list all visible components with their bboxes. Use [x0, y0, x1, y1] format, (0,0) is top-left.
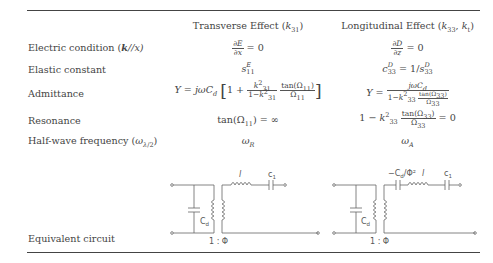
table-bottom-rule	[27, 252, 480, 253]
header-longitudinal-text: Longitudinal Effect (	[341, 20, 441, 31]
c1-label: c1	[268, 170, 276, 180]
longitudinal-resonance: 1 − k233 tan(Ω33)Ω33 = 0	[330, 110, 485, 127]
header-transverse-text: Transverse Effect (	[193, 20, 286, 31]
ratio-label: 1 : Φ	[209, 237, 228, 246]
row-label-resonance: Resonance	[28, 115, 81, 126]
transverse-equivalent-circuit: Cd l c1 1 : Φ	[170, 168, 320, 248]
label-k-vector: k	[121, 42, 128, 53]
transverse-admittance: Y = jωCd [1 + k2311−k231 tan(Ω11)Ω11]	[163, 82, 333, 99]
row-label-equivalent-circuit: Equivalent circuit	[28, 233, 115, 244]
c1-label: c1	[444, 169, 452, 179]
ratio-label: 1 : Φ	[370, 237, 389, 246]
transverse-elastic-constant: sE11	[163, 62, 333, 76]
longitudinal-electric-condition: ∂D∂z = 0	[330, 40, 485, 57]
row-label-electric-condition: Electric condition (k//x)	[28, 42, 144, 53]
neg-cd-label: −Cd/Φ²	[388, 169, 416, 179]
k33-subscript: 33	[447, 26, 455, 34]
l-label: l	[422, 169, 425, 178]
label-tail: //x)	[128, 42, 144, 53]
row-label-elastic-constant: Elastic constant	[28, 64, 106, 75]
l-label: l	[239, 170, 242, 179]
row-label-admittance: Admittance	[28, 88, 84, 99]
row-label-half-wave-frequency: Half-wave frequency (ωλ/2)	[28, 135, 157, 146]
longitudinal-admittance: Y = jωCd1−k233 tan(Ω33)Ω33	[330, 82, 485, 105]
longitudinal-half-wave: ωA	[330, 135, 485, 146]
kt-subscript: t	[468, 26, 471, 34]
transverse-electric-condition: ∂E∂x = 0	[163, 40, 333, 57]
table-top-rule	[27, 10, 480, 11]
header-transverse: Transverse Effect (k31)	[163, 20, 333, 31]
k-subscript: 31	[291, 26, 299, 34]
longitudinal-equivalent-circuit: Cd −Cd/Φ² l c1 1 : Φ	[330, 168, 485, 248]
label-text: Electric condition (	[28, 42, 121, 53]
transverse-resonance: tan(Ω11) = ∞	[163, 114, 333, 125]
label-text: Half-wave frequency (	[28, 135, 135, 146]
cd-label: Cd	[200, 217, 209, 227]
transverse-half-wave: ωR	[163, 135, 333, 146]
longitudinal-elastic-constant: cD33 = 1/sD33	[330, 62, 485, 76]
cd-label: Cd	[361, 217, 370, 227]
header-longitudinal: Longitudinal Effect (k33, kt)	[330, 20, 485, 31]
